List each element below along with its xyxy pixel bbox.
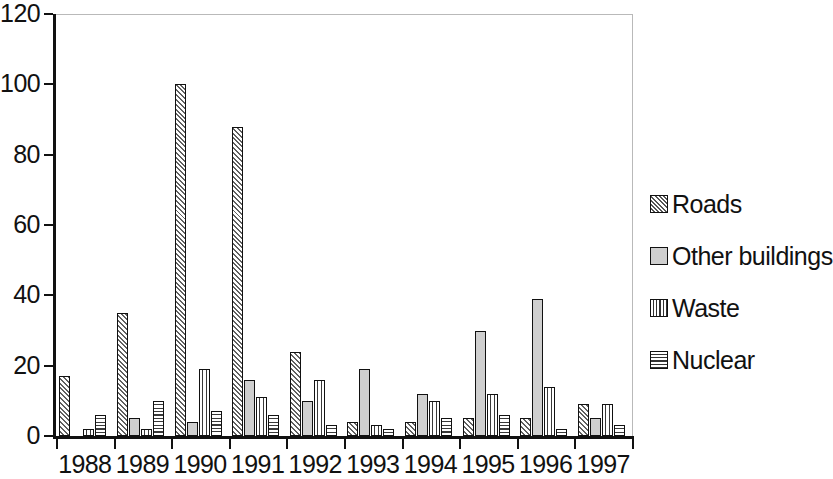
bar-waste-1994 xyxy=(429,401,440,436)
bar-roads-1995 xyxy=(463,418,474,436)
bar-waste-1988 xyxy=(83,429,94,436)
bar-roads-1993 xyxy=(347,422,358,436)
bar-nuclear-1988 xyxy=(95,415,106,436)
bar-other-buildings-1989 xyxy=(129,418,140,436)
bar-other-buildings-1996 xyxy=(532,299,543,436)
bar-waste-1997 xyxy=(602,404,613,436)
legend-item-label: Nuclear xyxy=(672,347,755,374)
bar-other-buildings-1991 xyxy=(244,380,255,436)
bar-waste-1991 xyxy=(256,397,267,436)
bar-other-buildings-1990 xyxy=(187,422,198,436)
bar-other-buildings-1995 xyxy=(475,331,486,437)
gray-swatch-icon xyxy=(650,247,668,265)
bar-roads-1996 xyxy=(520,418,531,436)
bar-other-buildings-1993 xyxy=(359,369,370,436)
bar-nuclear-1994 xyxy=(441,418,452,436)
bar-other-buildings-1994 xyxy=(417,394,428,436)
bar-nuclear-1991 xyxy=(268,415,279,436)
legend-item-waste[interactable]: Waste xyxy=(650,282,829,334)
bar-roads-1991 xyxy=(232,127,243,436)
bar-waste-1996 xyxy=(544,387,555,436)
bar-roads-1989 xyxy=(117,313,128,436)
chart-legend: RoadsOther buildingsWasteNuclear xyxy=(650,178,829,386)
bar-other-buildings-1992 xyxy=(302,401,313,436)
bar-roads-1992 xyxy=(290,352,301,436)
bar-nuclear-1995 xyxy=(499,415,510,436)
horizontal-lines-swatch-icon xyxy=(650,351,668,369)
bar-waste-1989 xyxy=(141,429,152,436)
legend-item-roads[interactable]: Roads xyxy=(650,178,829,230)
bar-nuclear-1993 xyxy=(383,429,394,436)
vertical-lines-swatch-icon xyxy=(650,299,668,317)
bar-nuclear-1992 xyxy=(326,425,337,436)
legend-item-label: Other buildings xyxy=(672,243,833,270)
bar-other-buildings-1997 xyxy=(590,418,601,436)
legend-item-label: Waste xyxy=(672,295,739,322)
bar-nuclear-1990 xyxy=(211,411,222,436)
bar-nuclear-1996 xyxy=(556,429,567,436)
bar-waste-1992 xyxy=(314,380,325,436)
legend-item-label: Roads xyxy=(672,191,742,218)
legend-item-nuclear[interactable]: Nuclear xyxy=(650,334,829,386)
hatch-swatch-icon xyxy=(650,195,668,213)
bar-waste-1995 xyxy=(487,394,498,436)
bar-waste-1993 xyxy=(371,425,382,436)
legend-item-other-buildings[interactable]: Other buildings xyxy=(650,230,829,282)
bar-nuclear-1997 xyxy=(614,425,625,436)
bar-roads-1990 xyxy=(175,84,186,436)
bar-roads-1994 xyxy=(405,422,416,436)
bar-nuclear-1989 xyxy=(153,401,164,436)
bar-roads-1997 xyxy=(578,404,589,436)
bar-roads-1988 xyxy=(59,376,70,436)
bar-waste-1990 xyxy=(199,369,210,436)
